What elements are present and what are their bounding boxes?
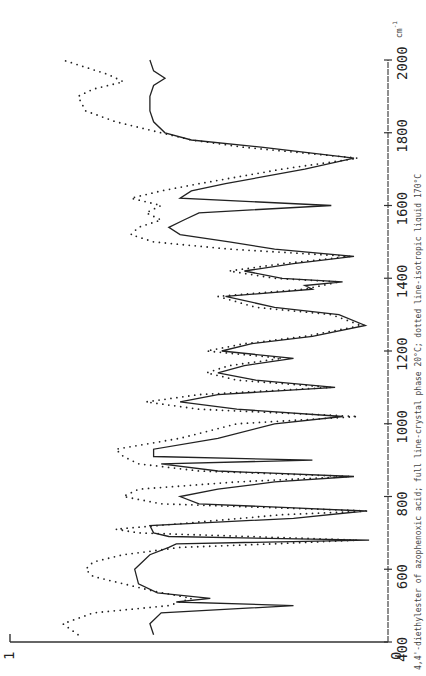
tick-label-800: 800 <box>394 491 410 516</box>
tick-label-400: 400 <box>394 637 410 662</box>
crystal-phase-line <box>135 60 369 635</box>
absorbance-label-1: 1 <box>1 652 17 660</box>
tick-label-1000: 1000 <box>394 410 410 444</box>
tick-label-1400: 1400 <box>394 265 410 299</box>
figure-caption: 4,4'-diethylester of azophenoxic acid; f… <box>414 174 423 670</box>
axes <box>10 60 392 642</box>
tick-label-2000: 2000 <box>394 46 410 80</box>
ir-spectrum-chart: 1 0 400600800100012001400160018002000 cm… <box>0 0 426 676</box>
wavenumber-labels: 400600800100012001400160018002000 <box>394 46 410 662</box>
tick-label-1800: 1800 <box>394 119 410 153</box>
tick-label-1200: 1200 <box>394 337 410 371</box>
tick-label-1600: 1600 <box>394 192 410 226</box>
tick-label-600: 600 <box>394 564 410 589</box>
unit-label: cm-1 <box>391 21 404 38</box>
isotropic-liquid-dotted-line <box>63 60 369 635</box>
